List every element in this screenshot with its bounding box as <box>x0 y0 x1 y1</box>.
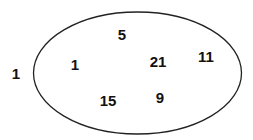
region-value-bottom-left: 15 <box>100 92 117 109</box>
region-value-top: 5 <box>118 26 126 43</box>
outside-value: 1 <box>12 65 20 82</box>
venn-diagram: 1 5 1 21 11 15 9 <box>0 0 253 140</box>
set-ellipse <box>34 12 242 134</box>
region-value-left: 1 <box>71 56 79 73</box>
region-value-bottom-center: 9 <box>156 89 164 106</box>
region-value-right: 11 <box>198 48 214 65</box>
region-value-center: 21 <box>150 53 167 70</box>
